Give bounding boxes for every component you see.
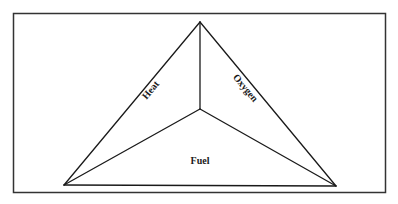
- edge-apex-bottom-right: [200, 22, 336, 186]
- label-heat: Heat: [140, 78, 162, 101]
- edge-center-bottom-right: [200, 109, 336, 186]
- edge-bottom: [64, 185, 336, 186]
- edge-center-bottom-left: [64, 109, 200, 185]
- edge-apex-bottom-left: [64, 22, 200, 185]
- label-fuel: Fuel: [191, 155, 210, 166]
- fire-tetrahedron-diagram: Heat Oxygen Fuel: [0, 0, 398, 204]
